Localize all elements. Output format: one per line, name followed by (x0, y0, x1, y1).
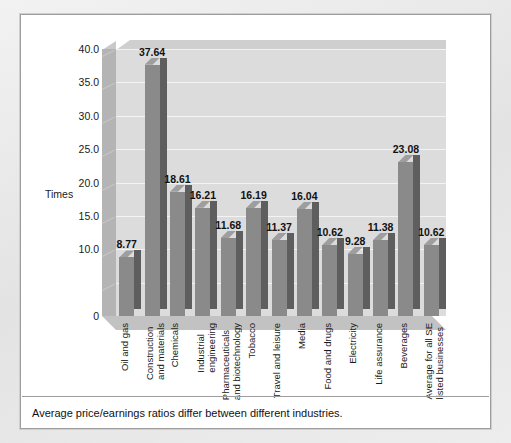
bar-front-face (398, 162, 413, 316)
y-axis-title: Times (45, 188, 73, 200)
bar[interactable]: 11.37 (272, 240, 287, 316)
bar-side-face (388, 233, 395, 309)
bar-front-face (297, 209, 312, 316)
y-axis-tick-label: 20.0 (39, 178, 99, 188)
bar-value-label: 16.04 (291, 190, 317, 202)
caption-divider (22, 396, 489, 397)
x-axis-category-label: Tobacco (247, 323, 258, 358)
bar-value-label: 11.68 (215, 219, 241, 231)
y-axis-tick-label: 40.0 (39, 44, 99, 54)
y-axis-tick-label: 35.0 (39, 77, 99, 87)
bar[interactable]: 23.08 (398, 162, 413, 316)
bar-side-face (134, 250, 141, 309)
y-axis-tick-label: 25.0 (39, 144, 99, 154)
x-axis-category-label: Industrial engineering (196, 323, 217, 373)
bar[interactable]: 37.64 (145, 65, 160, 316)
bar-front-face (119, 257, 134, 316)
bar[interactable]: 16.21 (195, 208, 210, 316)
bar-side-face (185, 185, 192, 309)
bar-value-label: 10.62 (418, 226, 444, 238)
figure-frame: 8.7737.6418.6116.2111.6816.1911.3716.041… (0, 0, 511, 443)
bar-side-face (363, 247, 370, 309)
chart-panel: 8.7737.6418.6116.2111.6816.1911.3716.041… (20, 14, 491, 429)
bar[interactable]: 16.04 (297, 209, 312, 316)
bar-value-label: 16.19 (240, 189, 266, 201)
x-axis-category-label: Beverages (399, 323, 410, 368)
plot-left-wall (102, 49, 116, 316)
x-axis-category-label: Electricity (348, 323, 359, 364)
gridline (116, 49, 446, 50)
bar-value-label: 23.08 (393, 143, 419, 155)
bar-value-label: 10.62 (317, 226, 343, 238)
y-axis-tick-label: 10.0 (39, 244, 99, 254)
bar[interactable]: 16.19 (246, 208, 261, 316)
bar-side-face (312, 202, 319, 309)
bar-front-face (246, 208, 261, 316)
x-axis-category-label: Travel and leisure (272, 323, 283, 398)
bar[interactable]: 11.68 (221, 238, 236, 316)
bar-side-face (287, 233, 294, 309)
bar-front-face (145, 65, 160, 316)
bar-front-face (272, 240, 287, 316)
x-axis-category-label: Chemicals (170, 323, 181, 367)
bar-side-face (236, 231, 243, 309)
bar-value-label: 16.21 (190, 189, 216, 201)
x-axis-category-label: Media (297, 323, 308, 349)
bar[interactable]: 9.28 (348, 254, 363, 316)
bar-front-face (221, 238, 236, 316)
bar-front-face (322, 245, 337, 316)
bar-value-label: 37.64 (139, 46, 165, 58)
bar-front-face (195, 208, 210, 316)
x-axis-category-label: Food and drugs (323, 323, 334, 390)
bar-side-face (439, 238, 446, 309)
y-axis-tick-label: 0 (39, 311, 99, 321)
x-axis-category-label: Life assurance (374, 323, 385, 385)
bar[interactable]: 10.62 (322, 245, 337, 316)
bar[interactable]: 8.77 (119, 257, 134, 316)
bar-front-face (424, 245, 439, 316)
y-axis-tick-label: 15.0 (39, 211, 99, 221)
chart-caption: Average price/earnings ratios differ bet… (32, 407, 343, 419)
x-axis-category-label: Construction and materials (145, 323, 166, 380)
bar[interactable]: 10.62 (424, 245, 439, 316)
bar-value-label: 11.38 (368, 221, 394, 233)
bar-value-label: 8.77 (116, 238, 136, 250)
bar[interactable]: 11.38 (373, 240, 388, 316)
bar-side-face (261, 201, 268, 309)
bar-front-face (373, 240, 388, 316)
y-axis-tick-label: 30.0 (39, 111, 99, 121)
bar-side-face (210, 201, 217, 309)
x-axis-category-label: Pharmaceuticals and biotechnology (221, 323, 242, 400)
bar-side-face (337, 238, 344, 309)
bar-front-face (170, 192, 185, 316)
x-axis-category-label: Oil and gas (120, 323, 131, 371)
bar-value-label: 11.37 (266, 221, 292, 233)
bar-value-label: 9.28 (345, 235, 365, 247)
bar-value-label: 18.61 (164, 173, 190, 185)
bar[interactable]: 18.61 (170, 192, 185, 316)
bar-front-face (348, 254, 363, 316)
x-axis-category-label: Average for all SE listed businesses (424, 323, 445, 399)
